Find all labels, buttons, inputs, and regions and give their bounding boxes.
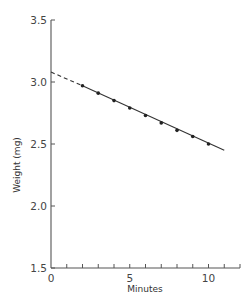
x-axis-label: Minutes: [127, 284, 163, 294]
data-point: [112, 99, 116, 103]
data-point: [81, 84, 85, 88]
fit-line: [83, 86, 225, 150]
data-point: [144, 114, 148, 118]
y-tick-label: 3.0: [30, 76, 47, 88]
extrapolation-line: [51, 72, 83, 86]
y-tick-label: 1.5: [30, 262, 47, 274]
plot-lines: [51, 72, 224, 150]
data-point: [207, 142, 211, 146]
y-axis-label: Weight (mg): [12, 137, 22, 193]
x-tick-label: 5: [126, 272, 133, 284]
x-tick-label: 10: [202, 272, 215, 284]
data-point: [175, 129, 179, 133]
x-tick-label: 0: [48, 272, 55, 284]
data-point: [191, 135, 195, 139]
data-point: [128, 106, 132, 110]
chart-canvas: 1.52.02.53.03.50510 Minutes Weight (mg): [0, 0, 250, 307]
data-point: [159, 121, 163, 125]
axis-ticks: 1.52.02.53.03.50510: [30, 14, 240, 284]
data-point: [96, 91, 100, 95]
y-tick-label: 3.5: [30, 14, 47, 26]
y-tick-label: 2.0: [30, 200, 47, 212]
y-tick-label: 2.5: [30, 138, 47, 150]
